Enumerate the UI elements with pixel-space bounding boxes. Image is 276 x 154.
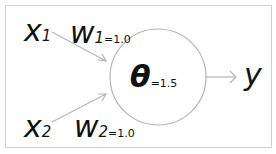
output-arrow xyxy=(206,71,236,83)
input-x1-label: x1 xyxy=(24,16,51,46)
input-x2-label: x2 xyxy=(24,112,51,142)
threshold-label: θ=1.5 xyxy=(130,62,177,92)
weight-w1-label: w1=1.0 xyxy=(70,18,131,48)
weight-w2-label: w2=1.0 xyxy=(74,112,135,142)
output-y-label: y xyxy=(244,60,262,90)
